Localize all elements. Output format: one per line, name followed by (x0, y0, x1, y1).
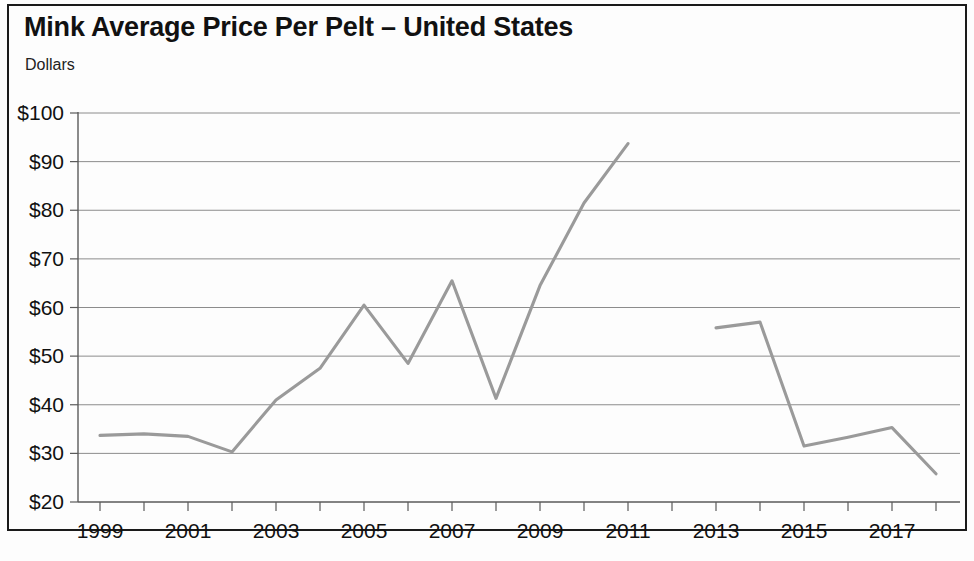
x-tick-label: 2013 (693, 519, 740, 542)
data-series-line (716, 322, 936, 474)
x-axis-tick-labels: 1999200120032005200720092011201320152017 (77, 519, 916, 542)
x-tick-label: 2009 (517, 519, 564, 542)
data-series-lines (100, 144, 936, 474)
y-tick-label: $70 (29, 247, 64, 270)
x-axis-ticks (100, 502, 936, 511)
y-tick-label: $50 (29, 344, 64, 367)
y-tick-label: $100 (17, 101, 64, 124)
x-tick-label: 2003 (253, 519, 300, 542)
x-tick-label: 2017 (869, 519, 916, 542)
y-tick-label: $60 (29, 296, 64, 319)
gridlines (78, 113, 960, 453)
chart-figure: Mink Average Price Per Pelt – United Sta… (0, 0, 974, 561)
x-tick-label: 2011 (605, 519, 650, 542)
x-tick-label: 2015 (781, 519, 828, 542)
y-axis-ticks (70, 113, 78, 502)
y-tick-label: $40 (29, 393, 64, 416)
x-tick-label: 2005 (341, 519, 388, 542)
y-tick-label: $30 (29, 441, 64, 464)
y-tick-label: $90 (29, 150, 64, 173)
line-chart-plot: $100$90$80$70$60$50$40$30$20 19992001200… (0, 0, 974, 561)
x-tick-label: 1999 (77, 519, 124, 542)
y-tick-label: $20 (29, 490, 64, 513)
y-tick-label: $80 (29, 198, 64, 221)
data-series-line (100, 144, 628, 452)
x-tick-label: 2001 (165, 519, 212, 542)
y-axis-tick-labels: $100$90$80$70$60$50$40$30$20 (17, 101, 64, 513)
x-tick-label: 2007 (429, 519, 476, 542)
